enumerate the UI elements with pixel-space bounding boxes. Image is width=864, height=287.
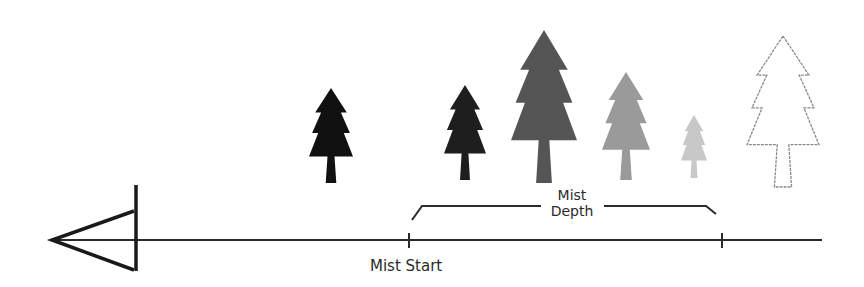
mist-start-label: Mist Start (370, 258, 442, 274)
mist-depth-label-line1: Mist (530, 187, 614, 203)
tree-1-icon (309, 88, 353, 183)
tree-6-icon (747, 36, 819, 187)
mist-depth-label: Mist Depth (530, 187, 614, 219)
tree-3-icon (511, 30, 577, 183)
tree-2-icon (444, 85, 486, 180)
trees-group (309, 30, 819, 187)
mist-depth-label-line2: Depth (530, 203, 614, 219)
tree-5-icon (681, 115, 707, 178)
camera-frustum-icon (52, 185, 136, 271)
tree-4-icon (602, 72, 650, 180)
mist-diagram (0, 0, 864, 287)
